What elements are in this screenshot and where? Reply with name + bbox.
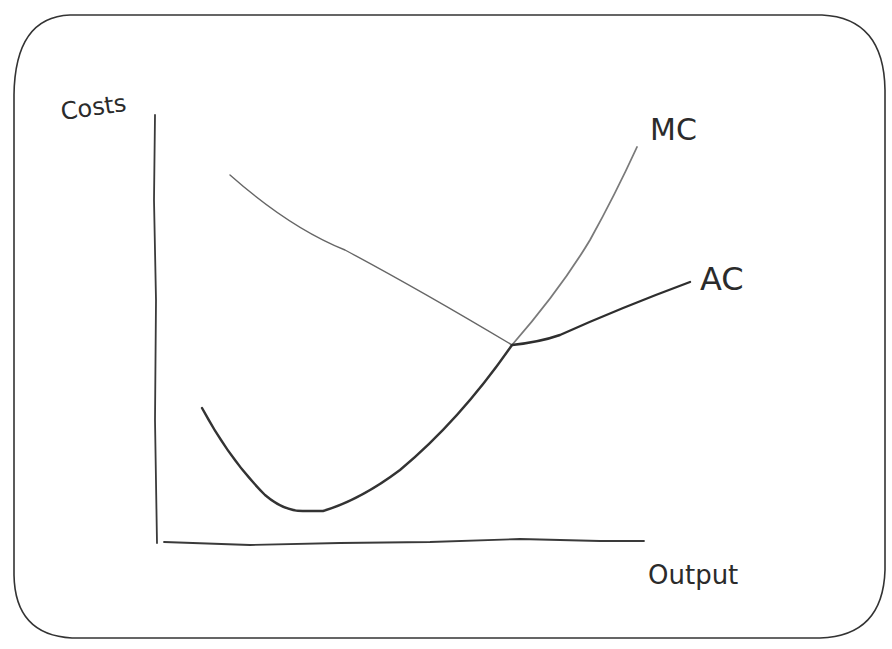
ac-curve-label: AC <box>700 260 744 298</box>
mc-curve-label: MC <box>650 112 697 147</box>
diagram-frame <box>14 15 885 638</box>
x-axis-label: Output <box>648 560 738 590</box>
ac-descending-stroke <box>230 175 512 345</box>
mc-rising-stroke <box>512 147 637 345</box>
mc-u-shaped-stroke <box>202 345 512 511</box>
y-axis-label: Costs <box>59 89 128 126</box>
x-axis <box>164 539 644 545</box>
y-axis <box>154 115 157 543</box>
cost-curves-diagram: Costs MC AC Output <box>0 0 892 649</box>
